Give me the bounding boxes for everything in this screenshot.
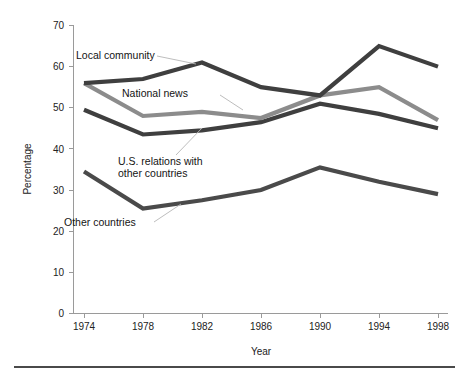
chart-plot-area: 70 60 50 40 30 20 10 0 Percentage 1974 1… (0, 0, 469, 376)
x-tick-label-1990: 1990 (309, 321, 332, 332)
x-tick-label-1978: 1978 (132, 321, 155, 332)
x-tick-label-1986: 1986 (250, 321, 273, 332)
annotation-us-relations-line1: U.S. relations with (118, 155, 203, 167)
y-tick-label-40: 40 (53, 144, 65, 155)
line-chart-figure: 70 60 50 40 30 20 10 0 Percentage 1974 1… (0, 0, 469, 376)
y-tick-label-20: 20 (53, 226, 65, 237)
y-tick-label-30: 30 (53, 185, 65, 196)
y-tick-label-50: 50 (53, 102, 65, 113)
x-tick-label-1982: 1982 (191, 321, 214, 332)
annotation-national-news: National news (122, 87, 188, 99)
annotation-us-relations-line2: other countries (118, 167, 187, 179)
y-axis-title: Percentage (22, 143, 33, 195)
footer-divider-rule (14, 366, 455, 368)
x-tick-label-1998: 1998 (427, 321, 450, 332)
y-tick-label-70: 70 (53, 20, 65, 31)
annotation-local-community: Local community (76, 49, 156, 61)
leader-national-news (220, 95, 243, 110)
x-axis-title: Year (251, 346, 272, 357)
y-tick-label-10: 10 (53, 267, 65, 278)
x-tick-label-1974: 1974 (73, 321, 96, 332)
leader-local-community (157, 56, 196, 64)
x-tick-label-1994: 1994 (368, 321, 391, 332)
y-tick-label-0: 0 (58, 308, 64, 319)
y-tick-label-60: 60 (53, 61, 65, 72)
annotation-other-countries: Other countries (64, 216, 136, 228)
